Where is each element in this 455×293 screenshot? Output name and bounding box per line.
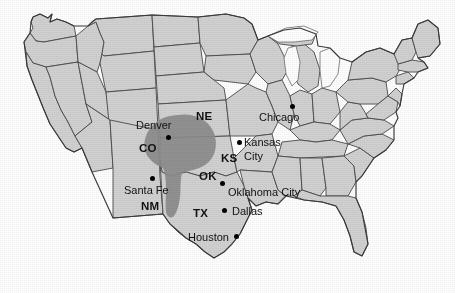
city-dot-chicago: [290, 104, 295, 109]
state-label-co: CO: [139, 142, 157, 154]
city-label-kansas-city-line2: City: [244, 150, 263, 162]
city-label-kansas-city-line1: Kansas: [244, 136, 281, 148]
city-dot-houston: [234, 234, 239, 239]
city-dot-dallas: [222, 208, 227, 213]
map-container: NE CO KS OK NM TX Denver Santa Fe Chicag…: [0, 0, 455, 293]
state-label-ks: KS: [221, 152, 238, 164]
state-label-nm: NM: [141, 200, 160, 212]
city-label-oklahoma-city: Oklahoma City: [228, 186, 300, 198]
city-label-santa-fe: Santa Fe: [124, 184, 169, 196]
labels-layer: NE CO KS OK NM TX Denver Santa Fe Chicag…: [0, 0, 455, 293]
city-label-denver: Denver: [136, 119, 171, 131]
city-dot-oklahoma-city: [220, 181, 225, 186]
city-dot-kansas-city: [237, 140, 242, 145]
state-label-tx: TX: [193, 207, 208, 219]
city-dot-santa-fe: [150, 176, 155, 181]
city-label-dallas: Dallas: [232, 205, 263, 217]
city-label-houston: Houston: [188, 231, 229, 243]
city-label-chicago: Chicago: [259, 111, 299, 123]
state-label-ne: NE: [196, 110, 213, 122]
state-label-ok: OK: [199, 170, 217, 182]
city-dot-denver: [166, 135, 171, 140]
